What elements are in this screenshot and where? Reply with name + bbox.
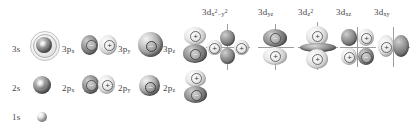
label-2s-text: 2s (12, 83, 20, 93)
orbital-2px: − + (82, 74, 116, 96)
sign-plus: + (102, 80, 113, 91)
lobe-right (393, 35, 409, 57)
label-3pz-text: 3pz (163, 44, 175, 54)
sign-minus: − (191, 90, 202, 101)
orbital-3pz: + − (182, 27, 208, 65)
label-1s: 1s (12, 113, 20, 122)
sign-minus: − (86, 40, 97, 51)
label-2pz: 2pz (163, 84, 175, 93)
sign-plus-bl: + (344, 52, 355, 63)
sign-plus: + (191, 73, 202, 84)
label-3d-z2-text: 3dz2 (298, 7, 313, 17)
label-3d-x2-y2: 3dx2−y2 (202, 8, 228, 17)
lobe-bottom (220, 48, 235, 64)
sign-minus: − (190, 49, 201, 60)
label-3py-text: 3py (118, 44, 131, 54)
sign-plus: + (381, 42, 392, 53)
label-3d-xz: 3dxz (336, 8, 351, 17)
label-1s-text: 1s (12, 112, 20, 122)
label-3d-z2: 3dz2 (298, 8, 313, 17)
sign-minus: − (146, 41, 157, 52)
sign-minus: − (270, 33, 281, 44)
orbital-3s (30, 30, 60, 60)
sphere-2s-core (37, 80, 46, 89)
lobe-top-left (341, 29, 357, 46)
orbital-3d-x2-y2: + + (206, 24, 250, 70)
sign-minus: − (145, 82, 156, 93)
orbital-3d-xy: + (378, 27, 410, 67)
label-3px-text: 3px (62, 44, 75, 54)
sign-plus-left: + (209, 43, 220, 54)
label-2px: 2px (62, 84, 75, 93)
orbital-3px: + − (81, 33, 119, 57)
orbital-2s (33, 76, 51, 94)
sign-plus: + (270, 51, 281, 62)
orbital-3d-yz: − + (258, 24, 294, 70)
label-3s-text: 3s (12, 44, 20, 54)
label-3d-yz-text: 3dyz (258, 7, 273, 17)
sign-minus-br: − (361, 52, 372, 63)
sphere-1s (37, 112, 47, 122)
label-3d-x2-y2-text: 3dx2−y2 (202, 7, 228, 17)
orbital-3d-z2: + + (298, 22, 338, 70)
shell-nucleus (40, 41, 48, 49)
label-3d-xy: 3dxy (374, 8, 390, 17)
label-3d-yz: 3dyz (258, 8, 273, 17)
label-3d-xz-text: 3dxz (336, 7, 351, 17)
orbital-3d-xz: + + − (340, 27, 376, 67)
sign-minus: − (86, 80, 97, 91)
sign-plus: + (104, 40, 115, 51)
orbital-2py: − (139, 75, 160, 96)
orbital-2pz: + − (184, 70, 208, 104)
label-3py: 3py (118, 45, 131, 54)
label-2py-text: 2py (118, 83, 131, 93)
lobe-top (220, 30, 235, 46)
sign-plus-right: + (236, 43, 247, 54)
label-2py: 2py (118, 84, 131, 93)
label-2px-text: 2px (62, 83, 75, 93)
label-3d-xy-text: 3dxy (374, 7, 390, 17)
orbital-3py: − (138, 32, 164, 58)
label-2s: 2s (12, 84, 20, 93)
label-2pz-text: 2pz (163, 83, 175, 93)
sign-plus-tr: + (361, 33, 372, 44)
label-3pz: 3pz (163, 45, 175, 54)
orbital-diagram: 3dx2−y2 3dyz 3dz2 3dxz 3dxy 3s 3px + − 3… (0, 0, 410, 130)
sign-plus-top: + (312, 31, 323, 42)
orbital-1s (37, 112, 47, 122)
sign-plus: + (190, 31, 201, 42)
sign-plus-bottom: + (312, 54, 323, 65)
label-3s: 3s (12, 45, 20, 54)
label-3px: 3px (62, 45, 75, 54)
